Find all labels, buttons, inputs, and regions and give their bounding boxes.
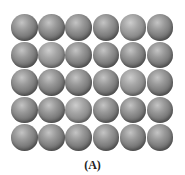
- sphere-atom: [65, 14, 92, 41]
- sphere-atom: [38, 69, 65, 96]
- sphere-atom: [38, 14, 65, 41]
- sphere-atom: [38, 97, 65, 124]
- sphere-atom: [147, 69, 174, 96]
- sphere-atom: [65, 124, 92, 151]
- sphere-atom: [120, 14, 147, 41]
- sphere-atom: [11, 14, 38, 41]
- sphere-atom: [93, 97, 120, 124]
- sphere-atom: [120, 42, 147, 69]
- sphere-atom: [93, 124, 120, 151]
- sphere-atom: [65, 69, 92, 96]
- sphere-atom: [120, 124, 147, 151]
- sphere-atom: [65, 97, 92, 124]
- sphere-atom: [93, 42, 120, 69]
- sphere-atom: [11, 42, 38, 69]
- sphere-atom: [120, 97, 147, 124]
- sphere-atom: [147, 124, 174, 151]
- figure-caption: (A): [0, 158, 185, 173]
- sphere-atom: [147, 14, 174, 41]
- sphere-atom: [93, 69, 120, 96]
- sphere-atom: [147, 42, 174, 69]
- sphere-atom: [11, 69, 38, 96]
- sphere-atom: [93, 14, 120, 41]
- sphere-atom: [11, 97, 38, 124]
- sphere-atom: [38, 124, 65, 151]
- sphere-grid: [11, 14, 174, 152]
- sphere-atom: [38, 42, 65, 69]
- sphere-atom: [65, 42, 92, 69]
- sphere-atom: [147, 97, 174, 124]
- sphere-atom: [11, 124, 38, 151]
- sphere-atom: [120, 69, 147, 96]
